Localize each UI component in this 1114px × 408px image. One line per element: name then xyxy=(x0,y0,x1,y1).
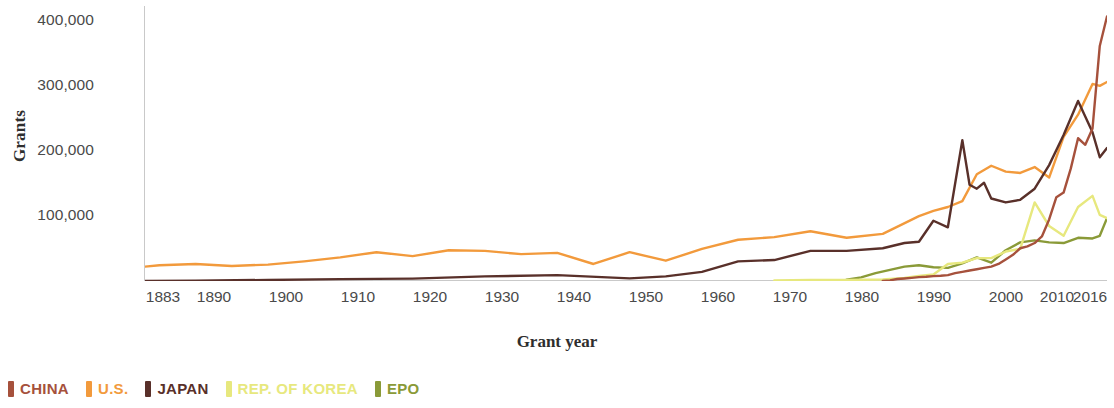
x-axis-tick-label: 2016 xyxy=(1073,288,1107,306)
y-axis-tick-label: 100,000 xyxy=(12,206,94,224)
legend-item-china[interactable]: CHINA xyxy=(8,380,69,397)
y-axis-tick-label: 200,000 xyxy=(12,141,94,159)
y-axis-title: Grants xyxy=(10,80,30,192)
x-axis-tick-label: 1990 xyxy=(917,288,951,306)
x-axis-tick-label: 1980 xyxy=(845,288,879,306)
grants-by-office-line-chart: Grants 400,000 300,000 200,000 100,000 1… xyxy=(0,0,1114,408)
legend-swatch-china xyxy=(8,381,14,397)
plot-area xyxy=(145,6,1107,281)
legend-label-epo: EPO xyxy=(387,380,420,397)
legend-swatch-us xyxy=(86,381,92,397)
legend-swatch-rep-of-korea xyxy=(226,381,232,397)
series-line-u-s xyxy=(145,82,1107,267)
legend-label-china: CHINA xyxy=(20,380,69,397)
legend-item-japan[interactable]: JAPAN xyxy=(145,380,208,397)
legend-swatch-epo xyxy=(375,381,381,397)
x-axis-tick-label: 1930 xyxy=(485,288,519,306)
series-layer xyxy=(145,6,1107,281)
legend-label-rep-of-korea: REP. OF KOREA xyxy=(238,380,358,397)
legend-item-rep-of-korea[interactable]: REP. OF KOREA xyxy=(226,380,358,397)
x-axis-tick-label: 1910 xyxy=(341,288,375,306)
x-axis-tick-label: 1960 xyxy=(701,288,735,306)
y-axis-tick-label: 400,000 xyxy=(12,11,94,29)
x-axis-tick-label: 2010 xyxy=(1040,288,1074,306)
x-axis-tick-label: 1900 xyxy=(269,288,303,306)
x-axis-tick-label: 1950 xyxy=(629,288,663,306)
x-axis-tick-label: 1920 xyxy=(413,288,447,306)
legend-label-japan: JAPAN xyxy=(157,380,208,397)
legend-item-epo[interactable]: EPO xyxy=(375,380,420,397)
legend-item-us[interactable]: U.S. xyxy=(86,380,128,397)
x-axis-tick-label: 2000 xyxy=(989,288,1023,306)
x-axis-tick-label: 1883 xyxy=(146,288,180,306)
x-axis-tick-label: 1970 xyxy=(773,288,807,306)
x-axis-tick-label: 1940 xyxy=(557,288,591,306)
y-axis-tick-label: 300,000 xyxy=(12,76,94,94)
legend: CHINA U.S. JAPAN REP. OF KOREA EPO xyxy=(8,380,437,397)
x-axis-title: Grant year xyxy=(0,332,1114,352)
legend-label-us: U.S. xyxy=(98,380,128,397)
legend-swatch-japan xyxy=(145,381,151,397)
x-axis-tick-label: 1890 xyxy=(197,288,231,306)
